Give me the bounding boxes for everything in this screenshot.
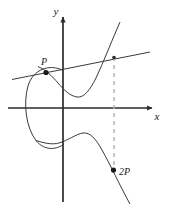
axes-group: [8, 17, 152, 202]
point-p-label: P: [40, 56, 47, 67]
y-axis-label: y: [53, 5, 59, 17]
point-2p-label: 2P: [119, 166, 130, 177]
elliptic-curve-figure: x y P 2P: [0, 0, 172, 218]
point-2p-marker: [111, 167, 116, 172]
point-p-group: P: [40, 56, 49, 75]
figure-canvas: x y P 2P: [0, 0, 172, 218]
tangent-curve-intersection-marker: [112, 56, 116, 60]
point-p-marker: [43, 70, 48, 75]
point-2p-group: 2P: [111, 166, 130, 177]
x-axis-label: x: [154, 110, 160, 122]
tangent-line-at-p: [12, 52, 150, 80]
curve-right-branch-lower: [36, 133, 130, 204]
curve-right-branch-upper: [38, 22, 120, 97]
